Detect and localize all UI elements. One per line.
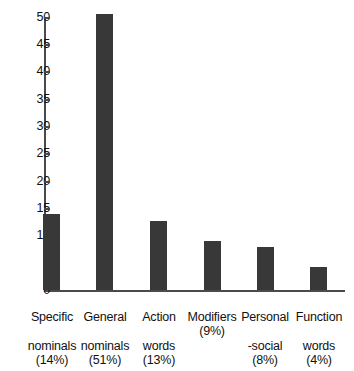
x-label-percent: (13%) [120, 353, 198, 368]
y-tick-45: 45 [0, 38, 50, 51]
bar-specific-nominals [43, 214, 60, 290]
bar-action-words [150, 221, 167, 290]
x-label-line2: words [303, 339, 335, 353]
y-tick-mark [44, 181, 50, 183]
y-tick-mark [44, 153, 50, 155]
x-label-line1: Function [296, 310, 342, 324]
x-label-line2: words [143, 339, 175, 353]
y-tick-mark [44, 126, 50, 128]
y-tick-30: 30 [0, 120, 50, 133]
x-axis-line [44, 290, 345, 292]
bar-modifiers [204, 241, 221, 290]
y-tick-mark [44, 71, 50, 73]
y-tick-25: 25 [0, 147, 50, 160]
x-label-line1: Action [142, 310, 176, 324]
bar-general-nominals [96, 14, 113, 290]
y-tick-mark [44, 208, 50, 210]
bar-personal-social [257, 247, 274, 290]
y-tick-35: 35 [0, 93, 50, 106]
x-label-function-words: Function words (4%) [280, 295, 354, 371]
y-tick-50: 50 [0, 11, 50, 24]
x-label-percent: (4%) [280, 353, 354, 368]
y-tick-40: 40 [0, 65, 50, 78]
x-label-line2: -social [248, 339, 283, 353]
bar-function-words [310, 267, 327, 290]
y-tick-20: 20 [0, 175, 50, 188]
y-tick-mark [44, 99, 50, 101]
y-tick-mark [44, 17, 50, 19]
y-tick-mark [44, 44, 50, 46]
